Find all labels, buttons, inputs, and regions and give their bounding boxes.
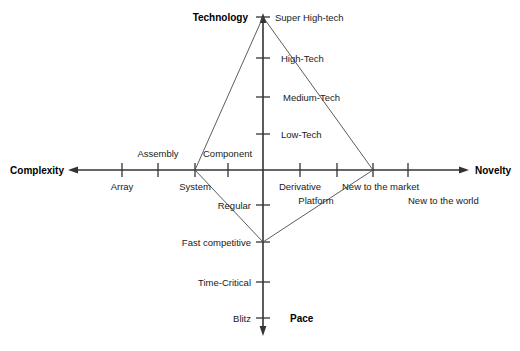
pace-arrowhead [260, 326, 267, 336]
tick-label-medium-tech: Medium-Tech [283, 92, 340, 103]
tick-label-assembly: Assembly [137, 148, 178, 159]
tick-label-blitz: Blitz [233, 313, 251, 324]
novelty-arrowhead [459, 167, 469, 174]
tick-label-array: Array [111, 181, 134, 192]
complexity-arrowhead [68, 167, 78, 174]
tick-label-high-tech: High-Tech [281, 53, 324, 64]
diagram-svg [0, 0, 520, 351]
horizontal-axis [68, 167, 469, 174]
tick-label-regular: Regular [218, 200, 251, 211]
tick-label-fast-competitive: Fast competitive [182, 237, 251, 248]
tick-label-platform: Platform [298, 195, 333, 206]
tick-label-super-high-tech: Super High-tech [275, 12, 344, 23]
tick-label-time-critical: Time-Critical [198, 277, 251, 288]
tick-label-system: System [179, 181, 211, 192]
tick-label-new-to-the-world: New to the world [408, 195, 479, 206]
tick-label-derivative: Derivative [279, 181, 321, 192]
axis-label-pace: Pace [290, 313, 313, 324]
axis-label-novelty: Novelty [475, 165, 511, 176]
axis-label-complexity: Complexity [10, 165, 64, 176]
vertical-axis [260, 13, 267, 336]
diagram-canvas: Technology Complexity Novelty Pace Super… [0, 0, 520, 351]
tick-label-component: Component [203, 148, 252, 159]
tick-label-new-to-the-market: New to the market [342, 181, 419, 192]
tick-label-low-tech: Low-Tech [281, 129, 322, 140]
axis-label-technology: Technology [193, 12, 248, 23]
